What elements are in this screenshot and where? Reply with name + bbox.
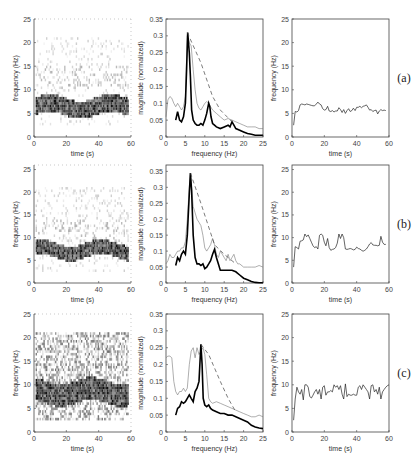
x-tick-label: 0 (290, 140, 294, 147)
x-tick-label: 60 (385, 435, 393, 442)
y-tick-label: 0 (159, 134, 163, 141)
y-tick-label: 0.05 (149, 264, 163, 271)
y-tick-label: 20 (281, 189, 289, 196)
x-tick-label: 40 (95, 286, 103, 293)
figure: 02040600510152025time (s)frequency (Hz)0… (0, 0, 417, 467)
x-tick-label: 20 (240, 140, 248, 147)
y-tick-label: 0.15 (149, 378, 163, 385)
plot-a-spectrogram: 02040600510152025time (s)frequency (Hz) (12, 16, 135, 159)
plot-b-spectrogram: 02040600510152025time (s)frequency (Hz) (12, 165, 135, 304)
y-tick-label: 0.35 (149, 16, 163, 23)
y-tick-label: 0.1 (153, 395, 163, 402)
y-axis-label: frequency (Hz) (270, 350, 278, 396)
y-tick-label: 10 (23, 86, 31, 93)
x-tick-label: 40 (353, 286, 361, 293)
y-tick-label: 20 (23, 334, 31, 341)
series-thin (166, 36, 263, 129)
series-peak-frequency (294, 234, 386, 267)
y-tick-label: 0.05 (149, 117, 163, 124)
axis-frame (292, 314, 389, 432)
y-tick-label: 20 (23, 39, 31, 46)
y-tick-label: 0.05 (149, 412, 163, 419)
y-tick-label: 0.2 (153, 361, 163, 368)
spectrogram-heatmap (36, 37, 129, 125)
x-tick-label: 5 (183, 286, 187, 293)
x-tick-label: 40 (353, 140, 361, 147)
plot-c-peak-track: 02040600510152025time (s)frequency (Hz) (270, 311, 393, 454)
x-tick-label: 20 (320, 286, 328, 293)
x-axis-label: time (s) (71, 296, 94, 304)
x-tick-label: 10 (201, 140, 209, 147)
x-tick-label: 60 (127, 435, 135, 442)
y-tick-label: 0.25 (149, 344, 163, 351)
y-tick-label: 15 (23, 358, 31, 365)
x-tick-label: 60 (127, 140, 135, 147)
x-tick-label: 10 (201, 435, 209, 442)
series-thick (176, 173, 263, 283)
x-tick-label: 0 (164, 140, 168, 147)
y-axis-label: frequency (Hz) (270, 55, 278, 101)
y-tick-label: 5 (27, 257, 31, 264)
y-tick-label: 0 (27, 429, 31, 436)
series-peak-frequency (294, 102, 386, 125)
x-tick-label: 0 (32, 140, 36, 147)
y-tick-label: 0.25 (149, 200, 163, 207)
x-tick-label: 0 (290, 286, 294, 293)
x-tick-label: 5 (183, 435, 187, 442)
y-axis-label: frequency (Hz) (12, 201, 20, 247)
x-tick-label: 0 (32, 286, 36, 293)
series-envelope (201, 344, 236, 412)
series-thick (176, 33, 263, 136)
y-tick-label: 25 (281, 166, 289, 173)
y-tick-label: 0.2 (153, 66, 163, 73)
y-tick-label: 0 (159, 429, 163, 436)
x-axis-label: time (s) (71, 445, 94, 453)
x-tick-label: 25 (259, 435, 267, 442)
x-axis-label: time (s) (71, 150, 94, 158)
y-tick-label: 5 (285, 110, 289, 117)
y-tick-label: 20 (281, 334, 289, 341)
plot-b-spectrum: 051015202500.050.10.150.20.250.30.35freq… (137, 165, 267, 304)
plot-c-spectrum: 051015202500.050.10.150.20.250.30.35freq… (137, 311, 267, 454)
y-tick-label: 25 (281, 16, 289, 23)
y-tick-label: 10 (281, 86, 289, 93)
y-axis-label: magnitude (normalized) (137, 41, 145, 115)
y-tick-label: 0 (27, 134, 31, 141)
y-tick-label: 0.25 (149, 49, 163, 56)
x-tick-label: 20 (62, 286, 70, 293)
axis-frame (292, 165, 389, 283)
y-tick-label: 25 (23, 16, 31, 23)
y-tick-label: 0.3 (153, 32, 163, 39)
y-axis-label: magnitude (normalized) (137, 336, 145, 410)
y-axis-label: frequency (Hz) (12, 55, 20, 101)
x-tick-label: 40 (95, 140, 103, 147)
x-axis-label: frequency (Hz) (192, 150, 238, 158)
spectrogram-heatmap (36, 187, 129, 272)
x-tick-label: 15 (220, 140, 228, 147)
y-tick-label: 0.3 (153, 184, 163, 191)
y-tick-label: 10 (23, 381, 31, 388)
y-tick-label: 0 (285, 429, 289, 436)
x-tick-label: 0 (290, 435, 294, 442)
y-tick-label: 0.2 (153, 216, 163, 223)
y-tick-label: 15 (23, 63, 31, 70)
x-tick-label: 20 (320, 435, 328, 442)
x-tick-label: 60 (385, 286, 393, 293)
x-tick-label: 0 (32, 435, 36, 442)
row-label: (a) (397, 71, 410, 85)
x-axis-label: frequency (Hz) (192, 445, 238, 453)
y-axis-label: frequency (Hz) (270, 201, 278, 247)
x-axis-label: time (s) (329, 150, 352, 158)
x-tick-label: 25 (259, 286, 267, 293)
y-tick-label: 25 (281, 311, 289, 318)
x-tick-label: 40 (95, 435, 103, 442)
y-tick-label: 15 (281, 358, 289, 365)
y-tick-label: 0 (285, 280, 289, 287)
x-tick-label: 40 (353, 435, 361, 442)
plot-a-peak-track: 02040600510152025time (s)frequency (Hz) (270, 16, 393, 159)
x-tick-label: 25 (259, 140, 267, 147)
series-thin (166, 175, 263, 268)
y-tick-label: 5 (285, 257, 289, 264)
y-tick-label: 0 (159, 280, 163, 287)
y-tick-label: 10 (281, 381, 289, 388)
